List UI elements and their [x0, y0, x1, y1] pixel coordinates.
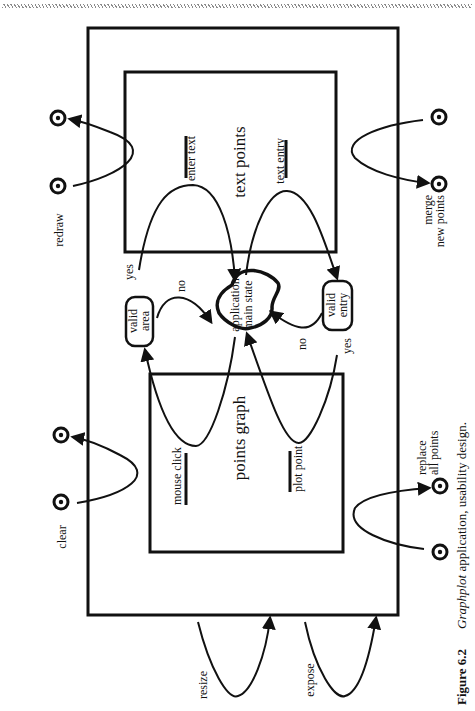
replace-all-points-event: replace all points	[354, 430, 447, 559]
plot-point-to-main-state-arrow	[247, 334, 337, 443]
main-state-label-1: application	[228, 278, 242, 331]
application-main-state: application main state	[217, 270, 279, 331]
clear-label: clear	[55, 525, 69, 548]
resize-label: resize	[196, 671, 210, 699]
mouse-click-event: mouse click	[170, 447, 186, 505]
points-graph-title: points graph	[230, 395, 249, 480]
mouse-click-label: mouse click	[170, 447, 184, 505]
enter-text-label: enter text	[184, 135, 198, 181]
replace-label-2: all points	[427, 430, 441, 475]
area-yes-label: yes	[122, 264, 136, 280]
main-state-label-2: main state	[241, 281, 255, 330]
resize-event: resize	[196, 618, 270, 699]
entry-yes-label: yes	[340, 338, 354, 354]
mouse-click-to-valid-area-arrow	[145, 337, 235, 446]
expose-event: expose	[303, 618, 376, 697]
area-no-arrow	[157, 297, 211, 322]
valid-area-decision: valid area	[126, 297, 153, 346]
replace-arrow	[354, 488, 429, 549]
text-entry-event: text entry	[273, 138, 287, 184]
plot-point-event: plot point	[290, 445, 305, 492]
figure-caption: Figure 6.2 Graphplot application, usabil…	[454, 422, 469, 705]
plot-point-label: plot point	[291, 445, 305, 492]
svg-text:Graphplot application, usabili: Graphplot application, usability design.	[454, 422, 469, 629]
valid-entry-label-2: entry	[336, 293, 350, 318]
clear-event: clear	[54, 428, 137, 549]
entry-no-label: no	[295, 338, 309, 350]
points-graph-state: points graph mouse click plot point	[150, 374, 343, 552]
figure-number: Figure 6.2	[454, 649, 469, 705]
redraw-event: redraw	[51, 111, 133, 247]
clear-arrow	[73, 437, 137, 503]
text-points-state: text points enter text text entry	[125, 72, 336, 252]
valid-entry-decision: valid entry	[323, 281, 352, 330]
redraw-label: redraw	[52, 213, 66, 247]
figure-caption-italic: Graphplot	[454, 574, 469, 629]
figure-caption-rest: application, usability design.	[454, 422, 469, 575]
area-no-label: no	[174, 280, 188, 292]
text-entry-to-valid-entry-arrow	[246, 191, 337, 278]
expose-label: expose	[303, 663, 317, 696]
text-entry-label: text entry	[273, 138, 287, 184]
enter-text-event: enter text	[184, 135, 198, 181]
area-yes-to-enter-text-arrow	[139, 185, 235, 280]
state-diagram: text points enter text text entry points…	[0, 0, 475, 711]
valid-area-label-2: area	[138, 310, 152, 331]
merge-arrow	[352, 120, 428, 183]
entry-no-arrow	[271, 312, 322, 328]
text-points-title: text points	[230, 126, 249, 197]
merge-label-2: new points	[433, 195, 447, 248]
